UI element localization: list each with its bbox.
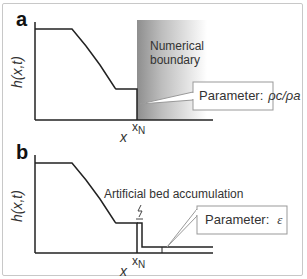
bed-profile-a <box>35 29 137 120</box>
callout-pointer-b <box>167 209 197 247</box>
x-axis-label-a: x <box>119 129 128 145</box>
panel-a: a Numerical boundary h(x,t) x xN Paramet… <box>9 8 301 145</box>
panel-b: b Artificial bed accumulation h(x,t) x x… <box>9 141 287 279</box>
numerical-boundary-label-2: boundary <box>150 53 200 67</box>
panel-a-label: a <box>16 8 28 30</box>
xN-marker-a: xN <box>132 120 145 136</box>
y-axis-label-a: h(x,t) <box>9 56 25 88</box>
artificial-bed-label: Artificial bed accumulation <box>104 187 243 201</box>
y-axis-label-b: h(x,t) <box>9 190 25 222</box>
figure: a Numerical boundary h(x,t) x xN Paramet… <box>0 0 307 279</box>
callout-text-a: Parameter:ρc/ρa <box>199 88 301 103</box>
numerical-boundary-label-1: Numerical <box>150 39 204 53</box>
lightning-icon <box>138 205 142 217</box>
panel-b-label: b <box>16 141 28 163</box>
bed-profile-b <box>35 163 137 253</box>
xN-marker-b: xN <box>132 254 145 270</box>
x-axis-label-b: x <box>119 263 128 279</box>
